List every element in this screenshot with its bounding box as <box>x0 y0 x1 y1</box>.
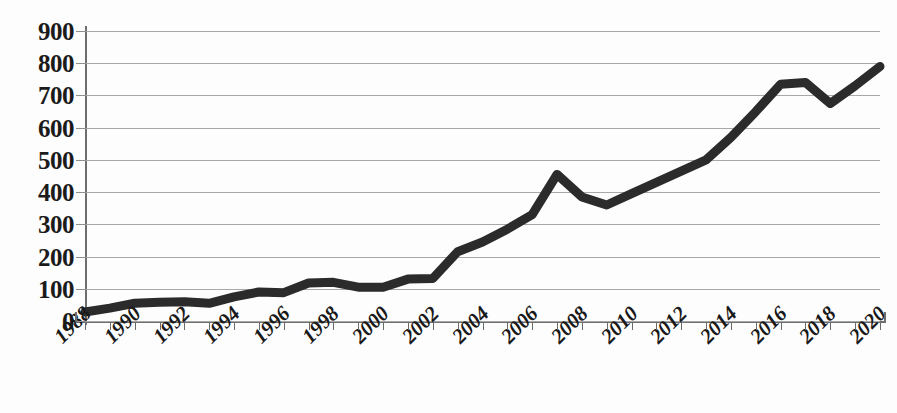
y-axis-tick-label: 600 <box>0 115 74 140</box>
x-axis-tick <box>209 322 210 330</box>
x-axis-tick <box>781 322 782 330</box>
y-axis-tick-label: 400 <box>0 180 74 205</box>
y-axis-tick-label: 700 <box>0 83 74 108</box>
x-axis-tick <box>706 322 707 330</box>
x-axis-labels: 1988199019921994199619982000200220042006… <box>0 331 897 413</box>
gridline <box>85 257 880 258</box>
x-axis-tick <box>135 322 136 330</box>
x-axis-tick <box>433 322 434 330</box>
y-axis-tick-label: 300 <box>0 212 74 237</box>
y-axis-tick <box>76 95 86 96</box>
x-axis-tick <box>284 322 285 330</box>
x-axis-tick <box>507 322 508 330</box>
x-axis-tick <box>160 322 161 330</box>
x-axis-tick <box>681 322 682 330</box>
y-axis-tick <box>76 128 86 129</box>
y-axis-tick <box>76 289 86 290</box>
y-axis-tick <box>76 31 86 32</box>
x-axis-tick <box>855 322 856 330</box>
x-axis-tick <box>85 322 86 330</box>
y-axis-tick-label: 900 <box>0 19 74 44</box>
gridline <box>85 31 880 32</box>
gridline <box>85 192 880 193</box>
x-axis-tick <box>358 322 359 330</box>
x-axis-tick <box>483 322 484 330</box>
gridline <box>85 224 880 225</box>
x-axis-end-cap <box>75 312 77 322</box>
y-axis-tick-label: 200 <box>0 244 74 269</box>
line-chart: 9008007006005004003002001000 19881990199… <box>0 0 897 413</box>
y-axis-tick <box>76 63 86 64</box>
plot-area <box>85 31 880 321</box>
x-axis-tick <box>458 322 459 330</box>
y-axis-tick <box>76 192 86 193</box>
x-axis-tick <box>731 322 732 330</box>
x-axis-tick <box>557 322 558 330</box>
y-axis-tick <box>76 160 86 161</box>
x-axis-tick <box>532 322 533 330</box>
gridline <box>85 289 880 290</box>
x-axis-tick <box>184 322 185 330</box>
x-axis-tick <box>234 322 235 330</box>
y-axis-tick <box>76 257 86 258</box>
y-axis-tick <box>76 224 86 225</box>
x-axis-tick <box>880 322 881 330</box>
x-axis-tick <box>830 322 831 330</box>
x-axis-tick <box>110 322 111 330</box>
y-axis-tick-label: 100 <box>0 276 74 301</box>
x-axis-tick <box>383 322 384 330</box>
x-axis-tick <box>582 322 583 330</box>
gridline <box>85 63 880 64</box>
y-axis-tick-label: 500 <box>0 147 74 172</box>
x-axis-end-cap <box>884 312 886 322</box>
y-axis-tick-label: 800 <box>0 51 74 76</box>
x-axis-tick <box>333 322 334 330</box>
gridline <box>85 95 880 96</box>
x-axis-tick <box>632 322 633 330</box>
gridline <box>85 128 880 129</box>
x-axis-tick <box>309 322 310 330</box>
x-axis-tick <box>259 322 260 330</box>
x-axis-tick <box>607 322 608 330</box>
x-axis-tick <box>408 322 409 330</box>
x-axis-tick <box>805 322 806 330</box>
gridline <box>85 160 880 161</box>
x-axis-tick <box>656 322 657 330</box>
x-axis-tick <box>756 322 757 330</box>
